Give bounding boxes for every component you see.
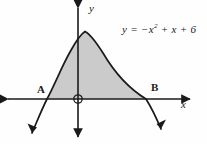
y-axis-label: y xyxy=(89,3,94,14)
point-label-a: A xyxy=(37,84,45,95)
graph-canvas xyxy=(0,0,207,144)
point-label-b: B xyxy=(151,82,158,93)
x-axis-label: x xyxy=(181,99,186,110)
equation-label: y = −x2 + x + 6 xyxy=(122,24,196,35)
equation-suffix: + x + 6 xyxy=(161,23,197,35)
equation-exponent: 2 xyxy=(154,22,158,30)
equation-prefix: y = −x xyxy=(122,23,154,35)
parabola-figure: y = −x2 + x + 6 y x A B xyxy=(0,0,207,144)
